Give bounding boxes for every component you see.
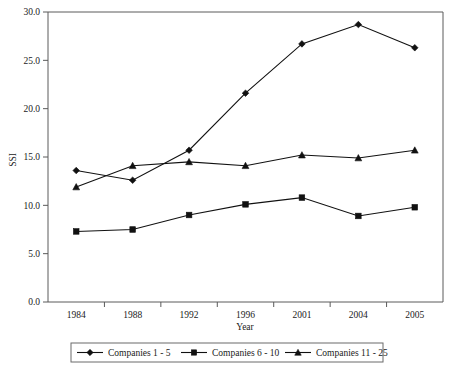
- marker-diamond: [411, 44, 418, 51]
- x-tick-label: 2004: [349, 310, 368, 320]
- x-axis-title: Year: [236, 322, 254, 332]
- x-tick-label: 1984: [67, 310, 86, 320]
- legend-item-label: Companies 1 - 5: [108, 348, 171, 358]
- y-tick-label: 15.0: [23, 152, 40, 162]
- chart-legend: Companies 1 - 5Companies 6 - 10Companies…: [71, 343, 388, 362]
- marker-square: [243, 202, 249, 208]
- marker-square: [356, 213, 362, 219]
- x-tick-label: 2001: [292, 310, 311, 320]
- plot-frame: [48, 12, 443, 302]
- marker-square: [130, 227, 136, 233]
- marker-square: [186, 212, 192, 218]
- legend-item-label: Companies 11 - 25: [316, 348, 388, 358]
- y-tick-label: 0.0: [28, 297, 40, 307]
- marker-diamond: [73, 167, 80, 174]
- x-tick-label: 1996: [236, 310, 255, 320]
- marker-square: [191, 350, 196, 355]
- marker-diamond: [355, 21, 362, 28]
- series-1: [73, 21, 418, 183]
- y-axis-ticks: 0.05.010.015.020.025.030.0: [23, 7, 48, 307]
- y-tick-label: 10.0: [23, 201, 40, 211]
- legend-item-label: Companies 6 - 10: [212, 348, 280, 358]
- plot-border: [48, 12, 443, 302]
- marker-diamond: [129, 177, 136, 184]
- x-axis-ticks: 1984198819921996200120042005: [67, 302, 425, 320]
- y-tick-label: 30.0: [23, 7, 40, 17]
- x-tick-label: 1992: [180, 310, 199, 320]
- series-2: [73, 195, 417, 234]
- y-tick-label: 20.0: [23, 104, 40, 114]
- marker-triangle: [73, 184, 80, 190]
- chart-container: 0.05.010.015.020.025.030.0 1984198819921…: [0, 0, 451, 373]
- y-tick-label: 25.0: [23, 56, 40, 66]
- y-axis-title: SSI: [8, 153, 18, 167]
- marker-triangle: [411, 147, 418, 153]
- x-tick-label: 1988: [123, 310, 142, 320]
- line-chart: 0.05.010.015.020.025.030.0 1984198819921…: [0, 0, 451, 373]
- marker-square: [73, 229, 79, 235]
- x-tick-label: 2005: [405, 310, 424, 320]
- y-tick-label: 5.0: [28, 249, 40, 259]
- series-layer: [73, 21, 418, 234]
- series-3: [73, 147, 418, 190]
- marker-square: [299, 195, 305, 201]
- marker-square: [412, 204, 418, 210]
